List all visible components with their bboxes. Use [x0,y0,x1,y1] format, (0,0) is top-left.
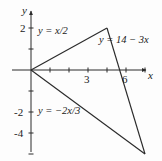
x-axis-label: x [148,70,153,81]
line-y-equals-14-minus-3x [107,28,145,154]
x-tick-label-6: 6 [122,74,128,85]
equation-label-upper-line: y = x/2 [38,26,68,37]
x-tick-label-3: 3 [84,74,90,85]
y-tick-label-minus-4: -4 [14,128,23,139]
equation-label-lower-line: y = −2x/3 [38,106,80,117]
graph-figure: y x 3 6 2 -2 -4 y = x/2 y = 14 − 3x y = … [0,0,162,161]
equation-label-right-line: y = 14 − 3x [99,35,149,46]
y-tick-label-2: 2 [20,23,26,34]
y-axis-label: y [22,5,27,16]
y-tick-label-minus-2: -2 [14,107,23,118]
triangle-region [31,28,145,154]
